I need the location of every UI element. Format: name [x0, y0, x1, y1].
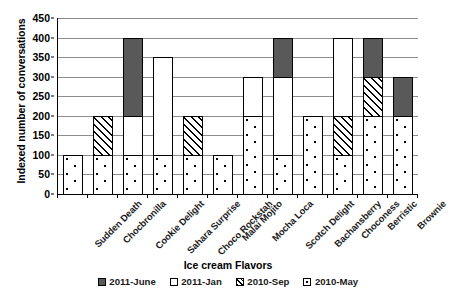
stacked-bar[interactable] [243, 77, 263, 194]
legend-swatch-icon [98, 278, 106, 286]
x-axis-category-labels: Sudden DeathChocbronillaCookie DelightSa… [57, 198, 417, 260]
stacked-bar[interactable] [153, 57, 173, 194]
bar-segment[interactable] [363, 116, 383, 194]
y-axis-tick-mark [51, 154, 54, 155]
stacked-bar[interactable] [273, 38, 293, 194]
stacked-bar[interactable] [393, 77, 413, 194]
bar-series-container [58, 18, 418, 194]
legend-item[interactable]: 2010-Sep [236, 276, 290, 287]
stacked-bar[interactable] [183, 116, 203, 194]
bar-segment[interactable] [93, 116, 113, 155]
legend-swatch-icon [303, 278, 311, 286]
legend-label: 2010-Sep [247, 276, 289, 287]
bar-segment[interactable] [333, 38, 353, 116]
bar-column[interactable] [268, 18, 298, 194]
stacked-bar[interactable] [333, 38, 353, 194]
bar-column[interactable] [358, 18, 388, 194]
bar-segment[interactable] [123, 116, 143, 155]
stacked-bar[interactable] [363, 38, 383, 194]
bar-segment[interactable] [273, 77, 293, 155]
bar-segment[interactable] [153, 155, 173, 194]
legend-label: 2011-Jan [181, 276, 222, 287]
y-axis-tick-mark [51, 18, 54, 19]
y-axis-tick-label: 350 [32, 52, 50, 63]
bar-column[interactable] [328, 18, 358, 194]
x-axis-title: Ice cream Flavors [0, 259, 456, 271]
bar-column[interactable] [58, 18, 88, 194]
y-axis-tick-mark [51, 174, 54, 175]
bar-segment[interactable] [183, 155, 203, 194]
bar-segment[interactable] [363, 38, 383, 77]
y-axis-tick-mark [51, 37, 54, 38]
stacked-bar[interactable] [63, 155, 83, 194]
bar-column[interactable] [88, 18, 118, 194]
legend-item[interactable]: 2011-June [98, 276, 156, 287]
plot-area [57, 18, 418, 195]
y-axis-tick-label: 50 [38, 169, 50, 180]
stacked-bar[interactable] [213, 155, 233, 194]
stacked-bar[interactable] [123, 38, 143, 194]
bar-column[interactable] [118, 18, 148, 194]
bar-segment[interactable] [183, 116, 203, 155]
bar-segment[interactable] [303, 116, 323, 194]
bar-segment[interactable] [393, 116, 413, 194]
y-axis-tick-mark [51, 96, 54, 97]
bar-segment[interactable] [63, 155, 83, 194]
legend-item[interactable]: 2010-May [303, 276, 358, 287]
legend-label: 2011-June [109, 276, 155, 287]
y-axis-tick-label: 300 [32, 71, 50, 82]
bar-segment[interactable] [243, 77, 263, 116]
y-axis-tick-label: 400 [32, 32, 50, 43]
y-axis-tick-mark [51, 57, 54, 58]
bar-segment[interactable] [393, 77, 413, 116]
y-axis-tick-mark [51, 194, 54, 195]
y-axis-tick-label: 250 [32, 91, 50, 102]
bar-segment[interactable] [213, 155, 233, 194]
bar-segment[interactable] [333, 116, 353, 155]
bar-column[interactable] [208, 18, 238, 194]
y-axis-tick-label: 450 [32, 13, 50, 24]
bar-column[interactable] [178, 18, 208, 194]
bar-segment[interactable] [123, 155, 143, 194]
bar-chart: Indexed number of conversations 45040035… [0, 0, 456, 295]
bar-segment[interactable] [93, 155, 113, 194]
bar-segment[interactable] [243, 116, 263, 194]
y-axis-tick-label: 150 [32, 130, 50, 141]
bar-column[interactable] [298, 18, 328, 194]
y-axis-tick-mark [51, 76, 54, 77]
y-axis-tick-label: 200 [32, 111, 50, 122]
stacked-bar[interactable] [303, 116, 323, 194]
y-axis-tick-label: 0 [44, 189, 50, 200]
bar-column[interactable] [148, 18, 178, 194]
bar-segment[interactable] [153, 57, 173, 155]
legend-label: 2010-May [315, 276, 358, 287]
legend-swatch-icon [236, 278, 244, 286]
bar-segment[interactable] [123, 38, 143, 116]
bar-segment[interactable] [273, 155, 293, 194]
stacked-bar[interactable] [93, 116, 113, 194]
y-axis-tick-label: 100 [32, 150, 50, 161]
legend-swatch-icon [170, 278, 178, 286]
y-axis-tick-mark [51, 115, 54, 116]
bar-column[interactable] [238, 18, 268, 194]
y-axis-tick-mark [51, 135, 54, 136]
chart-legend: 2011-June2011-Jan2010-Sep2010-May [0, 276, 456, 287]
bar-column[interactable] [388, 18, 418, 194]
bar-segment[interactable] [333, 155, 353, 194]
y-axis-tick-labels: 450400350300250200150100500 [22, 18, 54, 194]
x-axis-category-label: Brownie [415, 198, 448, 231]
bar-segment[interactable] [363, 77, 383, 116]
legend-item[interactable]: 2011-Jan [170, 276, 222, 287]
bar-segment[interactable] [273, 38, 293, 77]
